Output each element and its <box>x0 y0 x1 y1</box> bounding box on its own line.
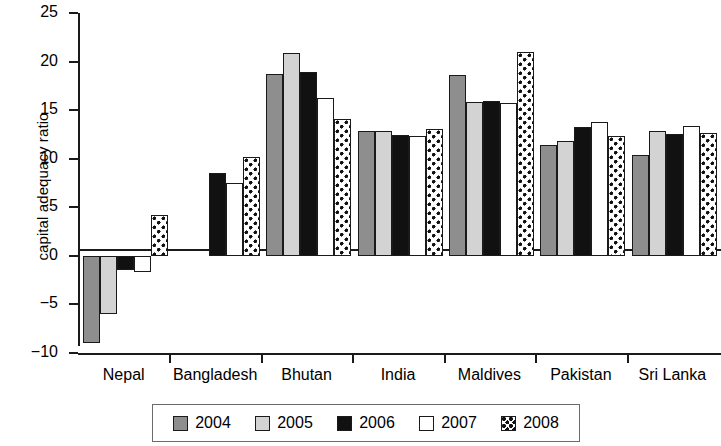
bar-pakistan-2004 <box>540 145 557 256</box>
x-axis-category-label: Pakistan <box>550 366 611 384</box>
x-axis-category-label: Nepal <box>103 366 145 384</box>
bar-bhutan-2007 <box>317 98 334 255</box>
x-axis-tick <box>627 353 629 363</box>
legend-swatch-dotted-pattern <box>501 416 516 431</box>
legend-swatch-black-fill <box>337 416 352 431</box>
bar-maldives-2007 <box>500 103 517 256</box>
y-axis-tick-label: 5 <box>16 198 58 214</box>
x-axis-category-label: Maldives <box>458 366 521 384</box>
bar-nepal-2004 <box>83 256 100 343</box>
y-axis-tick <box>69 352 78 354</box>
legend-swatch-dark-gray-fill <box>173 416 188 431</box>
bar-sri-lanka-2007 <box>683 126 700 256</box>
y-axis-tick-label: 20 <box>16 53 58 69</box>
bar-pakistan-2005 <box>557 141 574 256</box>
bar-maldives-2008 <box>517 52 534 256</box>
y-axis-tick-label: 25 <box>16 4 58 20</box>
y-axis-tick-label: −10 <box>16 344 58 360</box>
x-axis-category-label: Bangladesh <box>173 366 258 384</box>
bar-bangladesh-2008 <box>243 157 260 256</box>
y-axis-tick <box>69 255 78 257</box>
plot-area: 2520151050−5−10 NepalBangladeshBhutanInd… <box>78 10 718 346</box>
y-axis-tick <box>69 303 78 305</box>
legend-label: 2005 <box>277 415 313 431</box>
legend-label: 2008 <box>523 415 559 431</box>
bar-pakistan-2008 <box>608 136 625 255</box>
legend-label: 2006 <box>359 415 395 431</box>
bar-nepal-2007 <box>134 256 151 273</box>
bar-india-2004 <box>358 131 375 256</box>
bar-sri-lanka-2004 <box>632 155 649 256</box>
y-axis-tick <box>69 158 78 160</box>
legend-swatch-light-gray-fill <box>255 416 270 431</box>
bar-bangladesh-2006 <box>209 173 226 256</box>
legend-swatch-white-fill <box>419 416 434 431</box>
bar-sri-lanka-2006 <box>666 134 683 255</box>
bar-bhutan-2006 <box>300 72 317 256</box>
bar-nepal-2006 <box>117 256 134 271</box>
bar-sri-lanka-2005 <box>649 131 666 256</box>
x-axis-tick <box>261 353 263 363</box>
x-axis-line <box>78 353 721 355</box>
bar-bhutan-2004 <box>266 74 283 256</box>
bar-maldives-2004 <box>449 75 466 256</box>
y-axis-tick-label: 10 <box>16 150 58 166</box>
bar-pakistan-2006 <box>574 127 591 256</box>
bar-bhutan-2008 <box>334 119 351 256</box>
bar-maldives-2005 <box>466 102 483 255</box>
x-axis-tick <box>444 353 446 363</box>
bar-nepal-2008 <box>151 215 168 256</box>
y-axis-tick-label: 15 <box>16 101 58 117</box>
bar-india-2008 <box>426 129 443 256</box>
y-axis-tick-label: 0 <box>16 247 58 263</box>
legend-item-2004[interactable]: 2004 <box>173 415 231 431</box>
legend-label: 2004 <box>195 415 231 431</box>
y-axis-tick <box>69 109 78 111</box>
bar-bhutan-2005 <box>283 53 300 256</box>
y-axis-tick <box>69 61 78 63</box>
legend-item-2007[interactable]: 2007 <box>419 415 477 431</box>
x-axis-category-label: India <box>381 366 416 384</box>
y-axis-tick <box>69 206 78 208</box>
legend-item-2008[interactable]: 2008 <box>501 415 559 431</box>
bar-maldives-2006 <box>483 101 500 255</box>
y-axis-line <box>78 13 80 346</box>
legend-label: 2007 <box>441 415 477 431</box>
bar-sri-lanka-2008 <box>700 133 717 255</box>
x-axis-tick <box>535 353 537 363</box>
x-axis-category-label: Sri Lanka <box>638 366 706 384</box>
bar-bangladesh-2007 <box>226 183 243 256</box>
bar-india-2006 <box>392 135 409 255</box>
x-axis-tick <box>352 353 354 363</box>
bar-nepal-2005 <box>100 256 117 314</box>
bar-india-2005 <box>375 131 392 256</box>
bar-pakistan-2007 <box>591 122 608 256</box>
bar-india-2007 <box>409 136 426 255</box>
chart-legend: 20042005200620072008 <box>152 404 580 442</box>
legend-item-2006[interactable]: 2006 <box>337 415 395 431</box>
y-axis-tick <box>69 12 78 14</box>
bar-chart: capital adequacy ratio 2520151050−5−10 N… <box>0 0 721 446</box>
x-axis-category-label: Bhutan <box>281 366 332 384</box>
x-axis-tick <box>169 353 171 363</box>
legend-item-2005[interactable]: 2005 <box>255 415 313 431</box>
y-axis-tick-label: −5 <box>16 295 58 311</box>
